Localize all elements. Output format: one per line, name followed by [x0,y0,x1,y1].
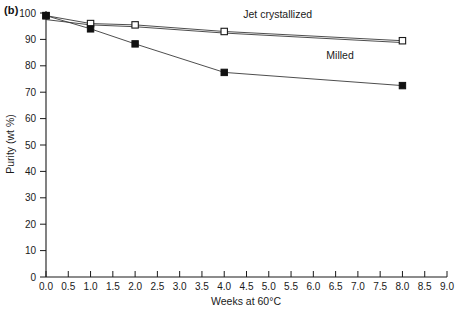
x-tick-label: 6.5 [329,281,343,292]
x-tick-label: 0.0 [39,281,53,292]
data-point-filled-square [221,69,227,75]
x-tick-label: 0.5 [61,281,75,292]
x-tick-label: 2.5 [150,281,164,292]
x-tick-label: 5.5 [284,281,298,292]
data-point-open-square [399,38,405,44]
data-point-filled-square [399,82,405,88]
x-axis-title: Weeks at 60°C [211,295,281,307]
x-tick-label: 7.5 [373,281,387,292]
data-point-filled-square [43,12,49,18]
data-point-filled-square [132,41,138,47]
y-tick-label: 50 [25,140,37,151]
x-tick-label: 3.0 [173,281,187,292]
y-tick-label: 20 [25,219,37,230]
purity-vs-weeks-line-chart: 0102030405060708090100 0.00.51.01.52.02.… [0,0,458,313]
y-axis-ticks: 0102030405060708090100 [19,8,46,283]
x-tick-label: 1.5 [106,281,120,292]
x-tick-label: 6.0 [306,281,320,292]
series-annotation-label: Milled [326,49,354,61]
y-tick-label: 10 [25,245,37,256]
x-tick-label: 4.5 [240,281,254,292]
y-tick-label: 0 [30,272,36,283]
x-tick-label: 9.0 [440,281,454,292]
data-point-filled-square [87,26,93,32]
data-point-open-square [132,22,138,28]
x-tick-label: 5.0 [262,281,276,292]
x-tick-label: 8.5 [418,281,432,292]
x-axis-ticks: 0.00.51.01.52.02.53.03.54.04.55.05.56.06… [39,271,454,292]
x-tick-label: 3.5 [195,281,209,292]
figure-panel-b: (b) 0102030405060708090100 0.00.51.01.52… [0,0,458,313]
y-tick-label: 90 [25,34,37,45]
y-tick-label: 60 [25,113,37,124]
x-tick-label: 2.0 [128,281,142,292]
x-tick-label: 7.0 [351,281,365,292]
y-tick-label: 100 [19,8,36,19]
y-tick-label: 40 [25,166,37,177]
y-tick-label: 70 [25,87,37,98]
x-tick-label: 4.0 [217,281,231,292]
data-point-open-square [221,28,227,34]
y-tick-label: 80 [25,60,37,71]
y-axis-title: Purity (wt %) [4,114,16,174]
x-tick-label: 8.0 [395,281,409,292]
x-tick-label: 1.0 [84,281,98,292]
series-annotation-label: Jet crystallized [243,8,312,20]
y-tick-label: 30 [25,192,37,203]
